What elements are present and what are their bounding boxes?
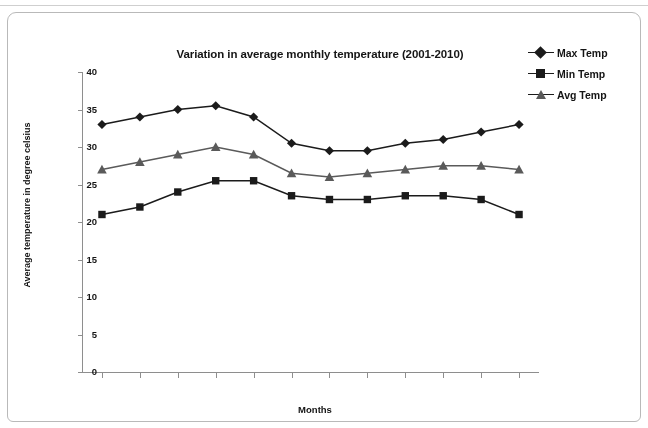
square-data-point-marker bbox=[212, 177, 219, 184]
y-axis-tick-label: 35 bbox=[71, 104, 97, 115]
y-axis-tick-label: 25 bbox=[71, 179, 97, 190]
square-data-point-marker bbox=[515, 211, 522, 218]
chart-title: Variation in average monthly temperature… bbox=[120, 48, 520, 60]
legend-item-avg-temp: Avg Temp bbox=[528, 84, 640, 105]
x-axis-tick-mark bbox=[367, 373, 368, 378]
y-axis-title: Average temperature in degree celsius bbox=[22, 70, 32, 340]
diamond-data-point-marker bbox=[249, 112, 258, 121]
series-line bbox=[102, 147, 519, 177]
legend-label-min-temp: Min Temp bbox=[557, 68, 605, 80]
line-chart: Variation in average monthly temperature… bbox=[0, 0, 648, 428]
y-axis-tick-label: 10 bbox=[71, 291, 97, 302]
diamond-data-point-marker bbox=[363, 146, 372, 155]
x-axis-tick-mark bbox=[481, 373, 482, 378]
legend-line-max-temp bbox=[528, 47, 554, 58]
x-axis-title: Months bbox=[255, 404, 375, 415]
x-axis-tick-mark bbox=[292, 373, 293, 378]
series-line bbox=[102, 106, 519, 151]
x-axis-tick-mark bbox=[443, 373, 444, 378]
diamond-data-point-marker bbox=[325, 146, 334, 155]
square-data-point-marker bbox=[477, 196, 484, 203]
square-data-point-marker bbox=[288, 192, 295, 199]
x-axis-tick-mark bbox=[254, 373, 255, 378]
diamond-data-point-marker bbox=[135, 112, 144, 121]
square-data-point-marker bbox=[98, 211, 105, 218]
square-data-point-marker bbox=[440, 192, 447, 199]
diamond-data-point-marker bbox=[173, 105, 182, 114]
legend-item-min-temp: Min Temp bbox=[528, 63, 640, 84]
chart-legend: Max Temp Min Temp Avg Temp bbox=[528, 42, 640, 105]
y-axis-tick-label: 20 bbox=[71, 216, 97, 227]
diamond-data-point-marker bbox=[477, 127, 486, 136]
diamond-data-point-marker bbox=[211, 101, 220, 110]
x-axis-tick-mark bbox=[405, 373, 406, 378]
diamond-data-point-marker bbox=[287, 139, 296, 148]
legend-item-max-temp: Max Temp bbox=[528, 42, 640, 63]
square-data-point-marker bbox=[402, 192, 409, 199]
y-axis-tick-label: 40 bbox=[71, 66, 97, 77]
x-axis-tick-mark bbox=[329, 373, 330, 378]
series-line bbox=[102, 181, 519, 215]
series-layer bbox=[83, 72, 538, 373]
triangle-data-point-marker bbox=[211, 142, 221, 151]
diamond-data-point-marker bbox=[514, 120, 523, 129]
square-data-point-marker bbox=[364, 196, 371, 203]
diamond-data-point-marker bbox=[439, 135, 448, 144]
y-axis-tick-label: 15 bbox=[71, 254, 97, 265]
y-axis-tick-label: 30 bbox=[71, 141, 97, 152]
x-axis-tick-mark bbox=[519, 373, 520, 378]
x-axis-tick-mark bbox=[102, 373, 103, 378]
y-axis-tick-label: 5 bbox=[71, 329, 97, 340]
legend-label-max-temp: Max Temp bbox=[557, 47, 608, 59]
x-axis-tick-mark bbox=[216, 373, 217, 378]
plot-area: JanFebMarAprMayJunJulAugSepOctNovDec bbox=[83, 72, 538, 372]
square-data-point-marker bbox=[136, 203, 143, 210]
diamond-data-point-marker bbox=[401, 139, 410, 148]
diamond-marker-icon bbox=[534, 46, 547, 59]
x-axis-tick-mark bbox=[178, 373, 179, 378]
diamond-data-point-marker bbox=[97, 120, 106, 129]
legend-label-avg-temp: Avg Temp bbox=[557, 89, 607, 101]
square-data-point-marker bbox=[250, 177, 257, 184]
square-data-point-marker bbox=[326, 196, 333, 203]
y-axis-tick-label: 0 bbox=[71, 366, 97, 377]
x-axis-tick-mark bbox=[140, 373, 141, 378]
square-data-point-marker bbox=[174, 188, 181, 195]
